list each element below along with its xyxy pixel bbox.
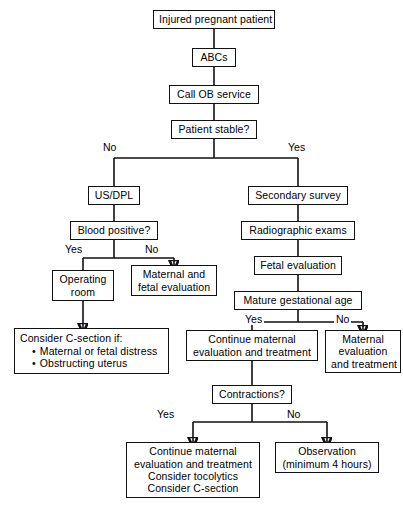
node-line: evaluation (331, 345, 395, 357)
node-line: Contractions? (218, 388, 286, 400)
node-fetaleval: Fetal evaluation (254, 256, 342, 275)
node-line: Mature gestational age (240, 294, 356, 306)
node-callob: Call OB service (169, 85, 259, 104)
node-contmat: Continue maternalevaluation and treatmen… (186, 330, 318, 361)
node-label-secondary: Secondary survey (254, 189, 342, 201)
edge-label-blood-no: No (143, 243, 160, 255)
edge-label-contractions-no: No (285, 408, 302, 420)
node-stable: Patient stable? (171, 120, 257, 139)
node-label-injured: Injured pregnant patient (159, 13, 269, 25)
node-line: Call OB service (175, 88, 253, 100)
flowchart-edges (0, 0, 403, 515)
node-line: Maternal (331, 333, 395, 345)
node-matfet: Maternal andfetal evaluation (131, 265, 217, 296)
flowchart-canvas: Injured pregnant patientABCsCall OB serv… (0, 0, 403, 515)
node-label-contractions: Contractions? (218, 388, 286, 400)
edge-label-contractions-yes: Yes (155, 408, 176, 420)
edge-label-blood-yes: Yes (63, 243, 84, 255)
node-secondary: Secondary survey (248, 186, 348, 205)
node-line: Observation (281, 445, 373, 457)
node-oproom: Operatingroom (52, 270, 114, 301)
node-line: Patient stable? (177, 123, 251, 135)
node-label-callob: Call OB service (175, 88, 253, 100)
node-line: evaluation and treatment (192, 346, 312, 358)
edge-label-stable-no: No (101, 141, 118, 153)
node-injured: Injured pregnant patient (153, 10, 275, 29)
node-line: Continue maternal (192, 333, 312, 345)
node-contractions: Contractions? (212, 385, 292, 404)
node-blood: Blood positive? (70, 221, 158, 240)
node-line: Injured pregnant patient (159, 13, 269, 25)
node-line: Consider C-section if: (20, 332, 163, 344)
node-line: Radiographic exams (247, 224, 349, 236)
node-bullet: Obstructing uterus (20, 357, 163, 369)
node-label-abcs: ABCs (198, 51, 230, 63)
node-label-radio: Radiographic exams (247, 224, 349, 236)
node-line: evaluation and treatment (132, 458, 254, 470)
node-line: fetal evaluation (137, 281, 211, 293)
node-line: Consider C-section (132, 482, 254, 494)
node-bullet: Maternal or fetal distress (20, 345, 163, 357)
node-line: Secondary survey (254, 189, 342, 201)
node-label-usdpl: US/DPL (94, 189, 134, 201)
node-abcs: ABCs (192, 48, 236, 67)
node-radio: Radiographic exams (241, 221, 355, 240)
node-observation: Observation(minimum 4 hours) (275, 442, 379, 473)
edge-label-mature-yes: Yes (243, 313, 264, 325)
edge-label-stable-yes: Yes (286, 141, 307, 153)
node-label-csection: Consider C-section if:Maternal or fetal … (20, 332, 163, 369)
node-label-contmat2: Continue maternalevaluation and treatmen… (132, 445, 254, 495)
node-mature: Mature gestational age (234, 291, 362, 310)
node-usdpl: US/DPL (88, 186, 140, 205)
node-label-mature: Mature gestational age (240, 294, 356, 306)
node-line: room (58, 286, 108, 298)
node-matevaltx: Maternalevaluationand treatment (325, 330, 401, 373)
node-line: and treatment (331, 358, 395, 370)
edge-label-mature-no: No (334, 313, 351, 325)
node-line: Operating (58, 273, 108, 285)
node-csection: Consider C-section if:Maternal or fetal … (14, 328, 169, 374)
node-label-matevaltx: Maternalevaluationand treatment (331, 333, 395, 370)
node-line: Maternal and (137, 268, 211, 280)
node-line: Consider tocolytics (132, 470, 254, 482)
node-label-blood: Blood positive? (76, 224, 152, 236)
node-line: Fetal evaluation (260, 259, 336, 271)
node-label-contmat: Continue maternalevaluation and treatmen… (192, 333, 312, 358)
node-label-fetaleval: Fetal evaluation (260, 259, 336, 271)
node-contmat2: Continue maternalevaluation and treatmen… (126, 442, 260, 498)
node-line: (minimum 4 hours) (281, 458, 373, 470)
node-line: Continue maternal (132, 445, 254, 457)
node-line: ABCs (198, 51, 230, 63)
node-label-stable: Patient stable? (177, 123, 251, 135)
node-label-matfet: Maternal andfetal evaluation (137, 268, 211, 293)
node-label-oproom: Operatingroom (58, 273, 108, 298)
node-line: US/DPL (94, 189, 134, 201)
node-line: Blood positive? (76, 224, 152, 236)
node-label-observation: Observation(minimum 4 hours) (281, 445, 373, 470)
